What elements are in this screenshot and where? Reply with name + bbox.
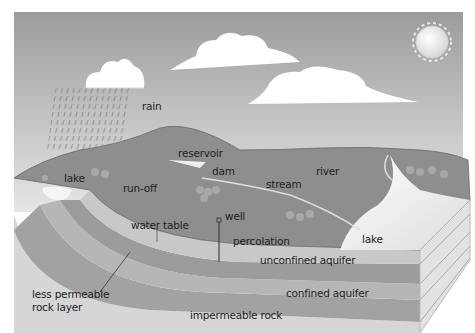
label-lake-right: lake [362, 233, 383, 245]
label-river: river [316, 165, 339, 177]
water-cycle-diagram: rain reservoir dam lake run-off stream r… [0, 0, 475, 333]
label-stream: stream [266, 178, 302, 190]
label-dam: dam [212, 165, 235, 177]
label-percolation: percolation [233, 235, 290, 247]
label-well: well [225, 210, 245, 222]
label-confined-aquifer: confined aquifer [286, 287, 369, 299]
label-impermeable-rock: impermeable rock [190, 309, 282, 321]
rain-streaks [47, 88, 132, 150]
label-run-off: run-off [123, 182, 157, 194]
label-less-permeable-1: less permeable [32, 288, 109, 300]
label-reservoir: reservoir [178, 147, 223, 159]
sun-icon [413, 23, 451, 61]
label-lake-left: lake [64, 172, 85, 184]
label-water-table: water table [131, 219, 189, 231]
diagram-illustration [0, 0, 475, 333]
label-rain: rain [142, 100, 162, 112]
label-unconfined-aquifer: unconfined aquifer [260, 254, 355, 266]
label-less-permeable-2: rock layer [32, 301, 82, 313]
